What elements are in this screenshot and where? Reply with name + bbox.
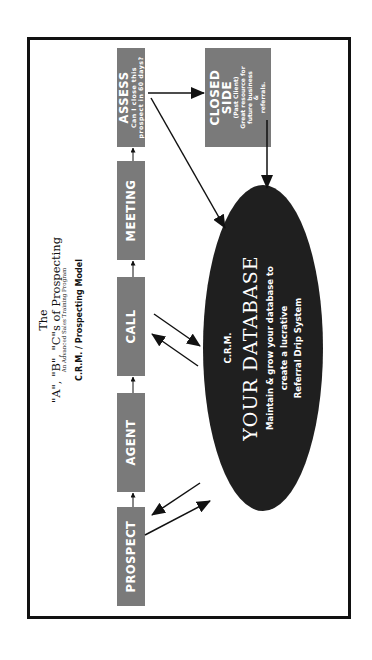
connector-arrows xyxy=(0,0,372,660)
arrow-prospect-database xyxy=(145,501,210,535)
diagram-rotated-stage: The "A", "B", "C"s of Prospecting An Adv… xyxy=(0,0,372,660)
arrow-call-database xyxy=(154,314,200,346)
arrow-database-call xyxy=(152,334,198,366)
arrow-assess-database xyxy=(151,98,225,228)
